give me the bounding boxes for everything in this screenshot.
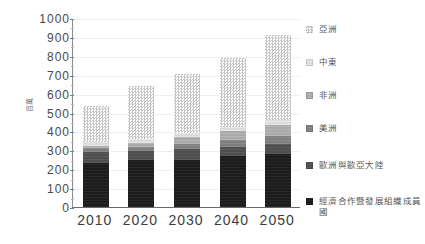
- bar-segment-europe: [83, 152, 109, 162]
- legend-item-label: 非洲: [319, 90, 338, 101]
- y-axis-tick-label: 600: [47, 90, 70, 100]
- y-axis-tickmark: [70, 208, 74, 209]
- y-axis-minor-tickmark: [71, 104, 74, 105]
- legend-item-label: 經濟合作暨發展組織成員國: [319, 196, 425, 218]
- bar-segment-americas: [174, 144, 200, 150]
- legend-item-europe-eurasia[interactable]: 歐洲與歐亞大陸: [306, 160, 425, 171]
- bar-2020: [128, 86, 154, 207]
- y-axis-minor-tickmark: [71, 85, 74, 86]
- bar-segment-mideast: [220, 127, 246, 132]
- legend-item-label: 中東: [319, 57, 338, 68]
- bar-segment-oecd: [220, 156, 246, 207]
- y-axis-tick-labels: 10009008007006005004003002001000: [26, 14, 70, 208]
- y-axis-tick-label: 1000: [39, 14, 70, 24]
- bar-segment-africa: [83, 146, 109, 149]
- bar-segment-americas: [83, 148, 109, 152]
- y-axis-tickmark: [70, 189, 74, 190]
- y-axis-tick-label: 700: [47, 71, 70, 81]
- legend-swatch-icon: [306, 125, 313, 132]
- y-axis-tick-label: 200: [47, 165, 70, 175]
- bar-segment-asia: [265, 35, 291, 120]
- bar-segment-americas: [128, 147, 154, 151]
- chart-legend: 亞洲中東非洲美洲歐洲與歐亞大陸經濟合作暨發展組織成員國: [306, 24, 425, 229]
- bar-segment-americas: [220, 140, 246, 147]
- bar-segment-mideast: [83, 142, 109, 146]
- bar-segment-mideast: [174, 133, 200, 137]
- y-axis-minor-tickmark: [71, 66, 74, 67]
- legend-item-label: 美洲: [319, 123, 338, 134]
- bar-segment-africa: [220, 131, 246, 140]
- x-axis-tick-label-2040: 2040: [214, 212, 249, 228]
- legend-item-americas[interactable]: 美洲: [306, 123, 425, 134]
- legend-item-oecd[interactable]: 經濟合作暨發展組織成員國: [306, 196, 425, 218]
- x-axis-tick-label-2030: 2030: [168, 212, 203, 228]
- bar-segment-europe: [128, 151, 154, 160]
- y-axis-tickmark: [70, 19, 74, 20]
- y-axis-minor-tickmark: [71, 199, 74, 200]
- y-axis-tickmark: [70, 57, 74, 58]
- bar-2050: [265, 35, 291, 207]
- y-axis-tick-label: 300: [47, 146, 70, 156]
- legend-item-asia[interactable]: 亞洲: [306, 24, 425, 35]
- x-axis-tick-label-2010: 2010: [77, 212, 112, 228]
- bar-segment-africa: [265, 125, 291, 136]
- legend-swatch-icon: [306, 59, 313, 66]
- y-axis-tickmark: [70, 170, 74, 171]
- y-axis-minor-tickmark: [71, 28, 74, 29]
- bar-segment-oecd: [265, 154, 291, 207]
- legend-item-africa[interactable]: 非洲: [306, 90, 425, 101]
- bar-segment-oecd: [128, 160, 154, 207]
- y-axis-minor-tickmark: [71, 47, 74, 48]
- y-axis-tickmark: [70, 132, 74, 133]
- legend-swatch-icon: [306, 26, 313, 33]
- y-axis-minor-tickmark: [71, 180, 74, 181]
- y-axis-tick-label: 500: [47, 109, 70, 119]
- legend-item-middle-east[interactable]: 中東: [306, 57, 425, 68]
- bar-segment-asia: [220, 58, 246, 127]
- bar-segment-africa: [128, 143, 154, 147]
- y-axis-tickmark: [70, 38, 74, 39]
- plot-area: [72, 19, 300, 208]
- y-axis-minor-tickmark: [71, 142, 74, 143]
- legend-item-label: 歐洲與歐亞大陸: [319, 160, 384, 171]
- bar-segment-asia: [174, 74, 200, 134]
- x-axis-tick-label-2020: 2020: [123, 212, 158, 228]
- y-axis-tick-label: 0: [62, 203, 70, 213]
- x-axis-tick-label-2050: 2050: [260, 212, 295, 228]
- bar-segment-asia: [128, 86, 154, 139]
- legend-swatch-icon: [306, 198, 313, 205]
- bar-segment-mideast: [128, 139, 154, 143]
- y-axis-tickmark: [70, 95, 74, 96]
- y-axis-tick-label: 800: [47, 52, 70, 62]
- y-axis-minor-tickmark: [71, 161, 74, 162]
- bar-segment-africa: [174, 137, 200, 144]
- bar-segment-oecd: [174, 160, 200, 207]
- legend-swatch-icon: [306, 162, 313, 169]
- bar-2010: [83, 106, 109, 207]
- y-axis-tickmark: [70, 114, 74, 115]
- legend-swatch-icon: [306, 92, 313, 99]
- bar-segment-europe: [174, 149, 200, 159]
- y-axis-tick-label: 900: [47, 33, 70, 43]
- bar-segment-mideast: [265, 120, 291, 125]
- bar-segment-americas: [265, 136, 291, 144]
- gridline: [73, 19, 300, 20]
- y-axis-tick-label: 100: [47, 184, 70, 194]
- y-axis-tickmark: [70, 151, 74, 152]
- bar-2030: [174, 74, 200, 207]
- y-axis-tick-label: 400: [47, 127, 70, 137]
- y-axis-tickmark: [70, 76, 74, 77]
- x-axis-tick-labels: 20102020203020402050: [72, 212, 300, 236]
- legend-item-label: 亞洲: [319, 24, 338, 35]
- bar-segment-europe: [220, 147, 246, 157]
- bar-segment-oecd: [83, 163, 109, 207]
- bar-segment-europe: [265, 144, 291, 154]
- y-axis-minor-tickmark: [71, 123, 74, 124]
- bar-segment-asia: [83, 106, 109, 142]
- bar-2040: [220, 58, 246, 207]
- stacked-bar-chart: 百萬 10009008007006005004003002001000 2010…: [0, 0, 425, 244]
